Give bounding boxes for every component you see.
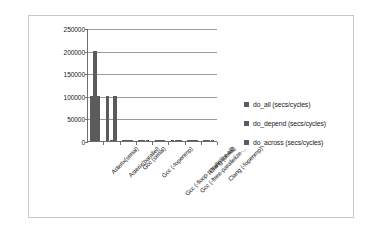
y-tick-label: 100000 [64, 93, 85, 100]
y-axis-tick-labels: 250000200000150000100000500000 [49, 29, 85, 142]
legend-label: do_across (secs/cycles) [253, 139, 323, 146]
bar-group [152, 28, 168, 141]
bar[interactable] [178, 140, 181, 141]
bar[interactable] [194, 140, 197, 141]
bar[interactable] [97, 96, 100, 141]
legend-swatch-icon [244, 140, 249, 145]
y-tick-label: 150000 [64, 71, 85, 78]
legend-item[interactable]: do_depend (secs/cycles) [244, 119, 378, 127]
bar-group [168, 28, 184, 141]
legend-label: do_all (secs/cycles) [253, 101, 310, 108]
legend-item[interactable]: do_across (secs/cycles) [244, 138, 378, 146]
bar-group [120, 28, 136, 141]
bar[interactable] [211, 140, 214, 141]
bar[interactable] [129, 140, 132, 141]
legend-swatch-icon [244, 102, 249, 107]
chart-legend: do_all (secs/cycles)do_depend (secs/cycl… [244, 100, 378, 157]
bar[interactable] [113, 96, 116, 141]
legend-item[interactable]: do_all (secs/cycles) [244, 100, 378, 108]
legend-swatch-icon [244, 121, 249, 126]
bar-group [103, 28, 119, 141]
bar-group [185, 28, 201, 141]
plot-area [87, 29, 217, 142]
bar[interactable] [162, 140, 165, 141]
y-tick-label: 250000 [64, 26, 85, 33]
bar[interactable] [146, 140, 149, 141]
y-tick-label: 50000 [67, 116, 85, 123]
bar-group [87, 28, 103, 141]
y-tick-label: 200000 [64, 48, 85, 55]
y-tick-mark [85, 142, 88, 143]
bar[interactable] [106, 96, 109, 141]
bar-group [136, 28, 152, 141]
bar-group [201, 28, 217, 141]
legend-label: do_depend (secs/cycles) [253, 120, 326, 127]
chart-frame: 250000200000150000100000500000 Asterix(s… [28, 15, 354, 218]
